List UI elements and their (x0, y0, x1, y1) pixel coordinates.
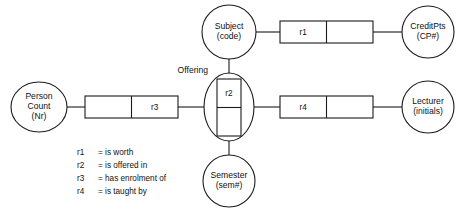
legend-key-r3: r3 (77, 174, 85, 183)
entity-semester[interactable]: Semester(sem#) (203, 155, 255, 207)
entity-person-count[interactable]: PersonCount(Nr) (11, 82, 67, 132)
entity-lecturer-name-line1: Lecturer (412, 96, 444, 106)
legend-key-r4: r4 (77, 187, 85, 196)
entity-creditpts[interactable]: CreditPts(CP#) (402, 6, 454, 58)
fact-r3[interactable]: r3 (85, 96, 178, 118)
fact-r1[interactable]: r1 (280, 21, 373, 43)
fact-r4[interactable]: r4 (280, 96, 373, 118)
legend-key-r1: r1 (77, 148, 85, 157)
legend-key-r2: r2 (77, 161, 85, 170)
legend-row-r2: r2= is offered in (77, 161, 148, 170)
legend-row-r4: r4= is taught by (77, 187, 148, 196)
entity-subject-reference-mode: (code) (217, 31, 241, 41)
fact-r1-cell-0-label: r1 (300, 28, 308, 37)
entity-subject-name-line1: Subject (215, 21, 244, 31)
entity-semester-reference-mode: (sem#) (216, 180, 243, 190)
entity-person-count-name-line2: Count (28, 101, 52, 111)
entity-creditpts-reference-mode: (CP#) (417, 31, 440, 41)
entity-lecturer[interactable]: Lecturer(initials) (402, 81, 454, 133)
er-diagram-page: r3r1r4 r2Offering PersonCount(Nr)Subject… (0, 0, 457, 213)
entity-lecturer-reference-mode: (initials) (413, 106, 443, 116)
offering-inner-cell-0-label: r2 (225, 89, 233, 98)
entity-semester-name-line1: Semester (211, 170, 248, 180)
fact-r3-cell-1-label: r3 (151, 103, 159, 112)
fact-r4-cell-0-label: r4 (300, 103, 308, 112)
entity-subject[interactable]: Subject(code) (202, 5, 256, 59)
legend-value-r1: = is worth (98, 148, 134, 157)
entity-creditpts-name-line1: CreditPts (410, 21, 445, 31)
entity-person-count-reference-mode: (Nr) (32, 111, 47, 121)
legend-value-r4: = is taught by (98, 187, 148, 196)
legend-group: r1= is worthr2= is offered inr3= has enr… (77, 148, 167, 196)
offering-label: Offering (178, 65, 209, 75)
offering-objectified-relationship[interactable]: r2Offering (178, 65, 254, 141)
legend-row-r3: r3= has enrolment of (77, 174, 167, 183)
legend-value-r2: = is offered in (98, 161, 148, 170)
legend-value-r3: = has enrolment of (98, 174, 167, 183)
legend-row-r1: r1= is worth (77, 148, 134, 157)
orm-diagram-canvas: r3r1r4 r2Offering PersonCount(Nr)Subject… (0, 0, 457, 213)
entity-person-count-name-line1: Person (25, 91, 52, 101)
